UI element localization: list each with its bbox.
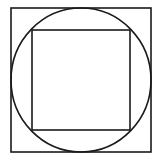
inner-square xyxy=(32,30,130,130)
geometry-diagram xyxy=(0,0,159,162)
